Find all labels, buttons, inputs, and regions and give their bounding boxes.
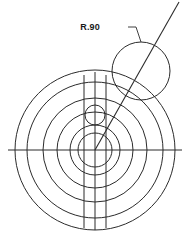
radius-callout-leader-line [128, 27, 141, 42]
radius-callout-label: R.90 [80, 22, 100, 32]
drawing-svg: R.90 [0, 0, 192, 249]
technical-drawing-canvas: R.90 [0, 0, 192, 249]
diagonal-radius-line [95, 2, 179, 150]
radius-90-circle [112, 42, 170, 100]
